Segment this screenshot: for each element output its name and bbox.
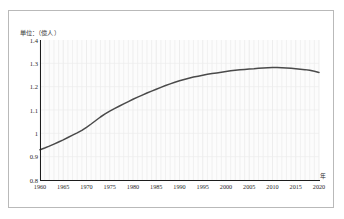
- population-series-line: [40, 40, 319, 180]
- x-axis-unit-label: 年: [320, 171, 326, 180]
- x-tick-label: 2020: [304, 183, 334, 191]
- population-line-chart-figure: 単位：（億人） 0.80.911.11.21.31.4 196019651970…: [0, 0, 344, 219]
- y-axis-tick-labels: 0.80.911.11.21.31.4: [2, 40, 38, 180]
- y-tick-label: 1.4: [4, 37, 38, 44]
- y-axis-line: [40, 40, 41, 180]
- y-tick-label: 1: [4, 130, 38, 137]
- x-axis-line: [40, 180, 320, 181]
- y-tick-label: 1.2: [4, 83, 38, 90]
- x-axis-tick-labels: 1960196519701975198019851990199520002005…: [40, 183, 320, 195]
- y-tick-label: 1.3: [4, 60, 38, 67]
- y-tick-label: 0.9: [4, 153, 38, 160]
- plot-area: [40, 40, 319, 180]
- y-tick-label: 1.1: [4, 107, 38, 114]
